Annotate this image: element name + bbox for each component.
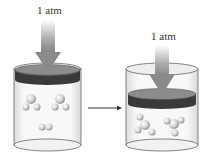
left-pressure-arrow (35, 20, 61, 72)
right-container (126, 45, 198, 151)
piston-diagram (0, 0, 214, 162)
left-container (14, 20, 81, 151)
reaction-arrow (88, 106, 122, 111)
